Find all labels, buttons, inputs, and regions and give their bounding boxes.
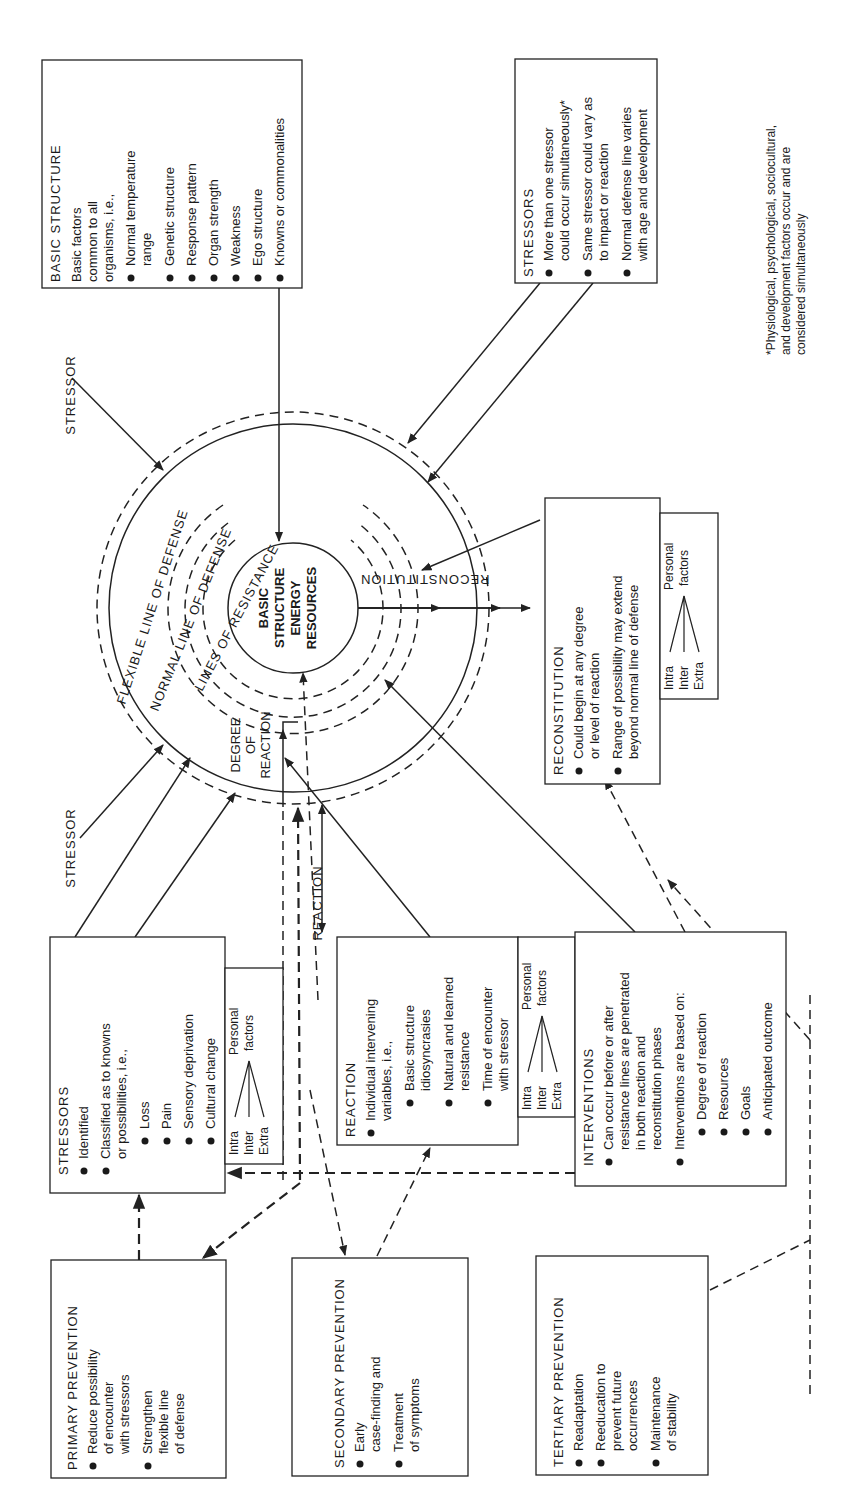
svg-text:Basic structure: Basic structure	[402, 1005, 417, 1091]
bullet-icon	[653, 1460, 660, 1467]
svg-text:considered simultaneously: considered simultaneously	[794, 214, 808, 355]
svg-text:Pain: Pain	[159, 1103, 174, 1129]
interventions-box: INTERVENTIONS Can occur before or after …	[575, 932, 786, 1186]
svg-text:idiosyncrasies: idiosyncrasies	[418, 1009, 433, 1091]
stressors-left-box: STRESSORS Identified Classified as to kn…	[50, 937, 283, 1193]
svg-text:Genetic structure: Genetic structure	[162, 167, 177, 266]
svg-text:occurrences: occurrences	[625, 1380, 640, 1451]
svg-text:could occur simultaneously*: could occur simultaneously*	[557, 100, 572, 261]
svg-text:REACTION: REACTION	[258, 711, 273, 778]
svg-text:Reduce possibility: Reduce possibility	[85, 1349, 100, 1454]
stressors-left-title: STRESSORS	[56, 1086, 71, 1175]
bullet-icon	[721, 1129, 728, 1136]
bullet-icon	[576, 1460, 583, 1467]
svg-text:and development factors occur: and development factors occur and are	[779, 147, 793, 355]
bullet-icon	[189, 275, 196, 282]
reaction-box: REACTION Individual intervening variable…	[337, 937, 575, 1145]
svg-text:Personal: Personal	[520, 963, 534, 1010]
svg-text:Goals: Goals	[738, 1086, 753, 1120]
primary-prevention-title: PRIMARY PREVENTION	[65, 1305, 80, 1470]
svg-text:Same stressor could vary as: Same stressor could vary as	[580, 96, 595, 261]
bullet-icon	[128, 275, 135, 282]
svg-text:reconstitution phases: reconstitution phases	[649, 1027, 664, 1150]
svg-text:Inter: Inter	[677, 666, 691, 690]
neuman-systems-model-diagram: BASIC STRUCTURE ENERGY RESOURCES FLEXIBL…	[0, 0, 847, 1510]
svg-text:Cultural change: Cultural change	[203, 1038, 218, 1129]
svg-text:Knowns or commonalities: Knowns or commonalities	[272, 117, 287, 266]
svg-text:beyond normal line of defense: beyond normal line of defense	[626, 585, 641, 759]
svg-text:case-finding and: case-finding and	[368, 1357, 383, 1452]
basic-structure-box: BASIC STRUCTURE Basic factors common to …	[42, 60, 302, 288]
stressor-label-bottom: STRESSOR	[63, 808, 78, 888]
reconstitution-box: RECONSTITUTION Could begin at any degree…	[545, 498, 718, 784]
arrows	[72, 283, 810, 1394]
bullet-icon	[277, 275, 284, 282]
svg-text:Time of encounter: Time of encounter	[480, 986, 495, 1091]
bullet-icon	[211, 275, 218, 282]
svg-text:of stability: of stability	[664, 1393, 679, 1451]
svg-text:Normal temperature: Normal temperature	[123, 150, 138, 266]
svg-text:Intra: Intra	[520, 1086, 534, 1110]
bullet-icon	[90, 1463, 97, 1470]
svg-text:Inter: Inter	[535, 1086, 549, 1110]
secondary-prevention-title: SECONDARY PREVENTION	[332, 1278, 347, 1468]
svg-text:Resources: Resources	[716, 1057, 731, 1120]
bullet-icon	[485, 1100, 492, 1107]
svg-text:Early: Early	[352, 1422, 367, 1452]
svg-text:in both reaction and: in both reaction and	[633, 1036, 648, 1150]
svg-text:Readaptation: Readaptation	[571, 1374, 586, 1451]
svg-text:Extra: Extra	[692, 662, 706, 690]
core-line-2: STRUCTURE	[272, 568, 287, 648]
basic-structure-title: BASIC STRUCTURE	[48, 144, 63, 282]
svg-text:of symptoms: of symptoms	[407, 1378, 422, 1452]
bullet-icon	[145, 1463, 152, 1470]
degree-of-reaction-label: DEGREE OF REACTION	[228, 711, 273, 778]
bullet-icon	[624, 270, 631, 277]
stressors-top-title: STRESSORS	[521, 188, 536, 277]
svg-text:Sensory deprivation: Sensory deprivation	[181, 1014, 196, 1129]
core-line-3: ENERGY	[288, 580, 303, 635]
svg-text:Range of possibility may exten: Range of possibility may extend	[610, 575, 625, 759]
svg-text:Extra: Extra	[550, 1082, 564, 1110]
svg-text:common to all: common to all	[85, 201, 100, 282]
core-line-4: RESOURCES	[304, 567, 319, 650]
bullet-icon	[606, 1159, 613, 1166]
svg-text:Basic factors: Basic factors	[69, 207, 84, 282]
bullet-icon	[167, 275, 174, 282]
core-line-1: BASIC	[256, 587, 271, 628]
svg-text:Could begin at any degree: Could begin at any degree	[571, 606, 586, 759]
svg-text:Intra: Intra	[227, 1131, 241, 1155]
svg-text:Extra: Extra	[257, 1127, 271, 1155]
svg-text:with age and development: with age and development	[635, 109, 650, 262]
bullet-icon	[186, 1138, 193, 1145]
tertiary-prevention-box: TERTIARY PREVENTION Readaptation Reeduca…	[536, 1256, 708, 1475]
stressor-label-top: STRESSOR	[63, 355, 78, 435]
svg-text:Personal: Personal	[662, 543, 676, 590]
svg-text:OF: OF	[243, 736, 258, 754]
svg-text:Identified: Identified	[76, 1106, 91, 1159]
svg-text:Organ strength: Organ strength	[206, 179, 221, 266]
svg-text:resistance lines are penetrate: resistance lines are penetrated	[617, 972, 632, 1150]
svg-text:Response pattern: Response pattern	[184, 163, 199, 266]
svg-text:of defense: of defense	[172, 1393, 187, 1454]
svg-text:Degree of reaction: Degree of reaction	[694, 1013, 709, 1120]
bullet-icon	[585, 270, 592, 277]
svg-text:with stressors: with stressors	[117, 1374, 132, 1455]
svg-text:Interventions are based on:: Interventions are based on:	[672, 992, 687, 1150]
svg-text:factors: factors	[677, 550, 691, 586]
svg-text:or level of reaction: or level of reaction	[587, 653, 602, 759]
tertiary-prevention-title: TERTIARY PREVENTION	[551, 1296, 566, 1467]
bullet-icon	[396, 1461, 403, 1468]
reconstitution-ring-label: RECONSTITUTION	[360, 572, 490, 587]
svg-text:Normal defense line varies: Normal defense line varies	[619, 107, 634, 261]
bullet-icon	[576, 768, 583, 775]
svg-text:Loss: Loss	[137, 1101, 152, 1129]
svg-text:to impact or reaction: to impact or reaction	[596, 143, 611, 261]
svg-text:Can occur before or after: Can occur before or after	[601, 1005, 616, 1150]
svg-text:Ego structure: Ego structure	[250, 189, 265, 266]
bullet-icon	[699, 1129, 706, 1136]
svg-text:Reeducation to: Reeducation to	[593, 1364, 608, 1451]
personal-factors-box: Intra Inter Extra Personal factors	[225, 968, 283, 1164]
bullet-icon	[407, 1100, 414, 1107]
svg-text:with stressor: with stressor	[496, 1017, 511, 1092]
